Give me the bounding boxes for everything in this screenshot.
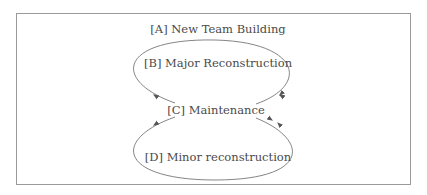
arc-c-to-d: [134, 117, 293, 180]
node-d-label: [D] Minor reconstruction: [145, 150, 291, 164]
node-a-label: [A] New Team Building: [150, 22, 285, 36]
arrow-into-c-top: [280, 90, 290, 96]
arc-b-to-c: [134, 40, 290, 104]
node-c-label: [C] Maintenance: [167, 103, 265, 117]
node-b-label: [B] Major Reconstruction: [144, 56, 292, 70]
